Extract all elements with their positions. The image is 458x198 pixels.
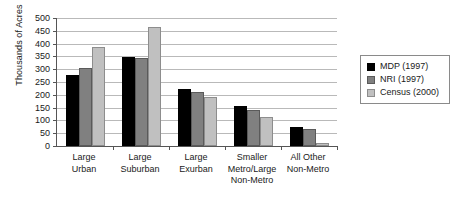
bar [316,143,329,146]
x-axis-category-label: Large Exurban [168,152,224,175]
bar-group [57,18,113,146]
bar-chart: Thousands of Acres 050100150200250300350… [0,0,458,198]
y-axis-tick-label: 350 [35,52,50,61]
y-axis-tick-label: 500 [35,14,50,23]
chart-legend: MDP (1997)NRI (1997)Census (2000) [360,55,450,104]
x-axis-category-label: Smaller Metro/Large Non-Metro [224,152,280,187]
x-axis-category-label: Large Suburban [112,152,168,175]
bar [178,89,191,146]
bar [148,27,161,146]
y-axis-tick-label: 200 [35,90,50,99]
bar [135,58,148,146]
y-axis-tick-label: 100 [35,116,50,125]
bar [79,68,92,146]
bar [204,97,217,146]
y-axis-tick-label: 300 [35,65,50,74]
y-axis-tick-label: 0 [45,142,50,151]
bar [303,129,316,146]
bar-group [281,18,337,146]
legend-item: Census (2000) [367,87,443,98]
bar-group [113,18,169,146]
y-axis-title: Thousands of Acres [14,0,24,108]
bar [191,92,204,146]
bar [234,106,247,146]
bar-group [225,18,281,146]
legend-color-swatch [367,89,375,97]
y-axis-tick-label: 250 [35,78,50,87]
bar [290,127,303,146]
x-axis-category-label: Large Urban [56,152,112,175]
x-axis-tick [337,146,338,150]
x-axis-tick [169,146,170,150]
y-axis-tick-label: 450 [35,26,50,35]
x-axis-tick [225,146,226,150]
legend-item: NRI (1997) [367,74,443,85]
bar [247,110,260,146]
bar [66,75,79,146]
legend-item-label: MDP (1997) [380,62,428,71]
x-axis-category-label: All Other Non-Metro [280,152,336,175]
plot-area: 050100150200250300350400450500 [56,18,337,147]
bar [260,117,273,146]
legend-color-swatch [367,76,375,84]
legend-color-swatch [367,63,375,71]
y-axis-tick-label: 50 [40,129,50,138]
bar [122,57,135,146]
y-axis-tick-label: 400 [35,39,50,48]
legend-item-label: NRI (1997) [380,75,424,84]
legend-item-label: Census (2000) [380,88,439,97]
x-axis-tick [281,146,282,150]
bar [92,47,105,146]
x-axis-tick [113,146,114,150]
legend-item: MDP (1997) [367,61,443,72]
y-axis-tick [53,146,57,147]
y-axis-tick-label: 150 [35,103,50,112]
bar-group [169,18,225,146]
